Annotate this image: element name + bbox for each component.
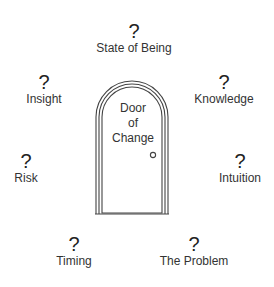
node-intuition: ? Intuition <box>219 152 261 185</box>
question-mark-icon: ? <box>26 73 61 91</box>
door-label-line: Change <box>112 131 154 146</box>
door-knob-icon <box>150 152 155 157</box>
question-mark-icon: ? <box>194 73 253 91</box>
question-mark-icon: ? <box>96 22 171 40</box>
node-label: Knowledge <box>194 92 253 106</box>
node-the-problem: ? The Problem <box>160 235 229 268</box>
question-mark-icon: ? <box>219 152 261 170</box>
door-label-line: of <box>112 116 154 131</box>
door-label: Door of Change <box>112 101 154 146</box>
node-label: State of Being <box>96 41 171 55</box>
node-label: Risk <box>14 171 37 185</box>
node-label: The Problem <box>160 254 229 268</box>
node-label: Intuition <box>219 171 261 185</box>
question-mark-icon: ? <box>160 235 229 253</box>
question-mark-icon: ? <box>56 235 92 253</box>
door-label-line: Door <box>112 101 154 116</box>
node-risk: ? Risk <box>14 152 37 185</box>
node-state-of-being: ? State of Being <box>96 22 171 55</box>
node-label: Insight <box>26 92 61 106</box>
node-timing: ? Timing <box>56 235 92 268</box>
question-mark-icon: ? <box>14 152 37 170</box>
node-label: Timing <box>56 254 92 268</box>
node-insight: ? Insight <box>26 73 61 106</box>
node-knowledge: ? Knowledge <box>194 73 253 106</box>
